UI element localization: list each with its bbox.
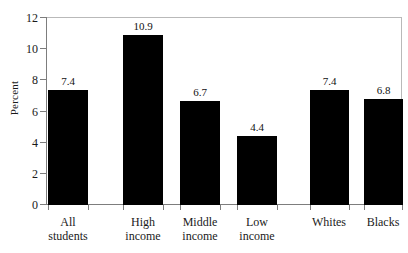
bar-chart: Percent 12 10 8 6 4 2 0 7.4 10.9 6.7 4.4… xyxy=(0,0,408,253)
x-label-low-income: Low income xyxy=(217,215,297,243)
x-label-low-income-line1: Low xyxy=(246,215,268,229)
x-label-high-income-line1: High xyxy=(131,215,155,229)
x-label-all-students: All students xyxy=(28,215,108,243)
x-tick-2 xyxy=(88,205,89,210)
x-tick-5 xyxy=(180,205,181,210)
bar-high-income[interactable] xyxy=(123,35,163,205)
bar-value-low-income: 4.4 xyxy=(237,122,277,133)
bar-blacks[interactable] xyxy=(364,99,403,205)
x-tick-6 xyxy=(220,205,221,210)
x-tick-11 xyxy=(364,205,365,210)
x-label-all-students-line2: students xyxy=(28,229,108,243)
x-label-all-students-line1: All xyxy=(60,215,75,229)
x-tick-7 xyxy=(237,205,238,210)
x-tick-12 xyxy=(402,205,403,210)
x-tick-9 xyxy=(310,205,311,210)
x-tick-1 xyxy=(48,205,49,210)
bar-value-whites: 7.4 xyxy=(310,76,349,87)
x-tick-8 xyxy=(277,205,278,210)
x-label-whites-line1: Whites xyxy=(312,215,346,229)
bar-low-income[interactable] xyxy=(237,136,277,205)
x-label-middle-income-line1: Middle xyxy=(183,215,218,229)
x-tick-3 xyxy=(123,205,124,210)
bar-whites[interactable] xyxy=(310,90,349,205)
bar-all-students[interactable] xyxy=(48,90,88,205)
bar-value-middle-income: 6.7 xyxy=(180,87,220,98)
x-label-blacks-line1: Blacks xyxy=(367,215,400,229)
x-label-low-income-line2: income xyxy=(217,229,297,243)
bar-middle-income[interactable] xyxy=(180,101,220,205)
x-tick-10 xyxy=(349,205,350,210)
bar-value-high-income: 10.9 xyxy=(123,21,163,32)
bar-value-all-students: 7.4 xyxy=(48,76,88,87)
bars-layer xyxy=(0,0,408,205)
x-label-blacks: Blacks xyxy=(343,215,408,229)
x-tick-4 xyxy=(163,205,164,210)
bar-value-blacks: 6.8 xyxy=(364,85,403,96)
